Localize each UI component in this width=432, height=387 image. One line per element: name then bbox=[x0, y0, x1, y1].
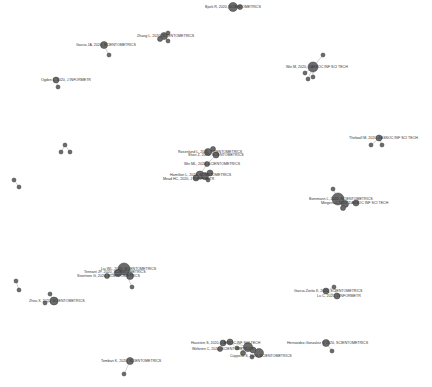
node-label: Wei M, 2020, J ASSOC INF SCI TECH bbox=[286, 65, 348, 69]
network-node[interactable] bbox=[68, 150, 72, 154]
network-node[interactable] bbox=[321, 53, 325, 57]
node-label: Zhang L, 2020, SCIENTOMETRICS bbox=[137, 34, 194, 38]
node-label: Haustein S, 2020, J ASSOC INF SCI TECH bbox=[191, 341, 260, 345]
network-node[interactable] bbox=[130, 285, 134, 289]
node-label: Shen Z, 2020, SCIENTOMETRICS bbox=[188, 153, 244, 157]
network-node[interactable] bbox=[63, 143, 67, 147]
network-node[interactable] bbox=[303, 71, 307, 75]
network-node[interactable] bbox=[306, 77, 310, 81]
node-label: Wei ML, 2020, SCIENTOMETRICS bbox=[184, 162, 240, 166]
network-graph[interactable] bbox=[0, 0, 432, 387]
node-label: Zhou X, 2020, SCIENTOMETRICS bbox=[29, 299, 85, 303]
node-label: Ogden L, 2020, J INFORMETR bbox=[41, 78, 91, 82]
network-node[interactable] bbox=[369, 143, 373, 147]
network-node[interactable] bbox=[48, 292, 52, 296]
node-label: Garcia JA, 2020, SCIENTOMETRICS bbox=[76, 43, 136, 47]
node-label: Hernandez-Gonzalez V, 2020, SCIENTOMETRI… bbox=[287, 341, 368, 345]
network-node[interactable] bbox=[56, 85, 60, 89]
edge-layer bbox=[14, 7, 382, 374]
network-node[interactable] bbox=[14, 279, 18, 283]
network-node[interactable] bbox=[107, 53, 111, 57]
network-node[interactable] bbox=[380, 143, 384, 147]
node-label: Cuppello S, 2020, SCIENTOMETRICS bbox=[230, 354, 292, 358]
network-node[interactable] bbox=[12, 178, 16, 182]
network-node[interactable] bbox=[341, 206, 346, 211]
node-label: Thelwall M, 2020, J ASSOC INF SCI TECH bbox=[349, 136, 418, 140]
network-canvas[interactable]: Bjork R, 2020, SCIENTOMETRICSZhang L, 20… bbox=[0, 0, 432, 387]
node-label: Tombari K, 2020, SCIENTOMETRICS bbox=[101, 359, 161, 363]
network-node[interactable] bbox=[331, 187, 335, 191]
node-label: Weltzien C, 2020, SCIENTOMETRICS bbox=[192, 347, 253, 351]
network-node[interactable] bbox=[330, 349, 334, 353]
network-node[interactable] bbox=[166, 39, 170, 43]
network-node[interactable] bbox=[59, 150, 63, 154]
node-label: Lu C, 2020, J INFORMETR bbox=[317, 294, 361, 298]
network-node[interactable] bbox=[17, 185, 21, 189]
network-node[interactable] bbox=[311, 75, 315, 79]
node-label: Garcia-Zorita K, 2020, SCIENTOMETRICS bbox=[294, 289, 362, 293]
network-node[interactable] bbox=[17, 288, 21, 292]
node-layer bbox=[12, 3, 384, 377]
node-label: Sivertsen G, 2020, SCIENTOMETRICS bbox=[77, 274, 140, 278]
network-node[interactable] bbox=[122, 372, 126, 376]
node-label: Mingers J, 2020, J ASSOC INF SCI TECH bbox=[321, 201, 388, 205]
node-label: Mead HC, 2020, J INFORMETR bbox=[163, 177, 214, 181]
node-label: Bjork R, 2020, SCIENTOMETRICS bbox=[205, 5, 261, 9]
